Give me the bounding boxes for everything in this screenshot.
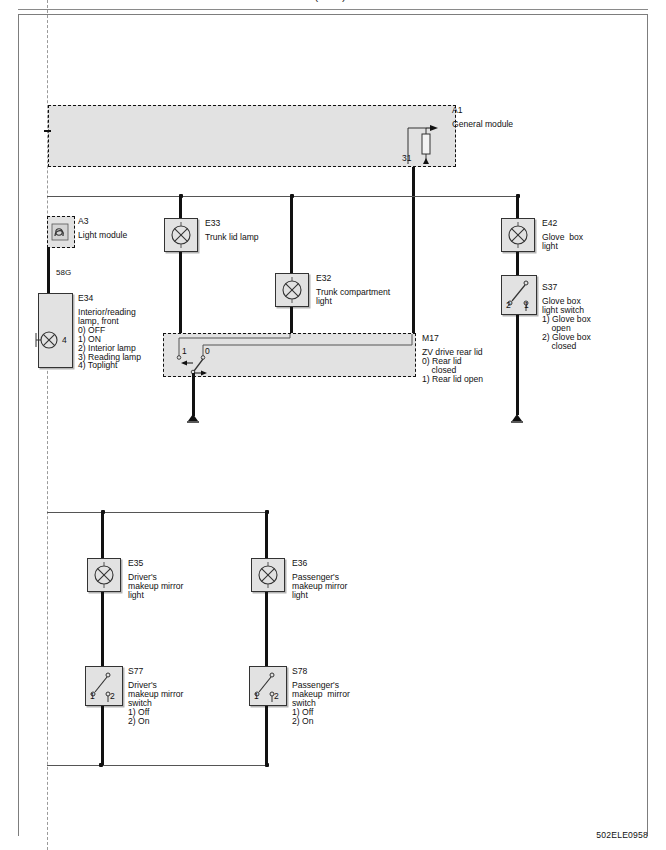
page-frame-left — [18, 14, 19, 836]
component-s37-pin-a: 2 — [506, 300, 511, 310]
module-a1-terminal-31-label: 31 — [402, 153, 411, 163]
lamp-icon — [168, 222, 194, 248]
component-s77-pin-b: 2 — [110, 691, 115, 701]
component-s78-name: Passenger's makeup mirror switch 1) Off … — [292, 681, 350, 726]
component-e42-id: E42 — [542, 219, 557, 228]
lamp-icon — [36, 329, 62, 351]
wire-58g — [47, 248, 50, 294]
wire-bus-to-e36 — [265, 512, 268, 558]
wire-e35-to-s77 — [101, 592, 104, 666]
wire-bus-to-e32 — [290, 196, 293, 273]
junction-dot-s77-return — [99, 763, 103, 767]
light-module-icon — [50, 222, 70, 242]
component-e42-name: Glove box light — [542, 233, 583, 251]
module-m17-pin-1: 1 — [182, 346, 187, 356]
component-s78-pin-b: 2 — [274, 691, 279, 701]
wire-e32-to-m17 — [290, 307, 293, 334]
wire-a1-to-m17 — [412, 167, 415, 342]
module-a1-general[interactable] — [48, 105, 456, 167]
wire-bus-to-e33 — [179, 196, 182, 218]
component-e35-name: Driver's makeup mirror light — [128, 573, 183, 600]
component-s78-pin-a: 1 — [254, 691, 259, 701]
page-frame-right — [647, 14, 648, 836]
ground-symbol-left — [186, 414, 200, 424]
bus-mirror-supply — [47, 512, 269, 513]
module-a3-name: Light module — [78, 231, 127, 240]
module-a3-id: A3 — [78, 217, 89, 226]
component-s78-id: S78 — [292, 667, 307, 676]
component-s77-pin-a: 1 — [90, 691, 95, 701]
page-frame-top — [18, 14, 648, 15]
drawing-code: 502ELE0958 — [596, 830, 648, 840]
component-e32-id: E32 — [316, 274, 331, 283]
wire-e36-to-s78 — [265, 592, 268, 666]
page-top-rule — [18, 9, 648, 10]
lamp-icon — [505, 222, 531, 248]
wire-s78-to-bus — [265, 706, 268, 766]
module-a1-left-terminal — [44, 130, 51, 132]
component-e34-name: Interior/reading lamp, front 0) OFF 1) O… — [78, 308, 141, 370]
component-e36-id: E36 — [292, 559, 307, 568]
component-e33-id: E33 — [205, 219, 220, 228]
module-a1-name: General module — [452, 120, 513, 129]
module-m17-state-1: 1) Rear lid open — [422, 375, 483, 384]
component-s37-id: S37 — [542, 283, 557, 292]
wire-s77-to-bus — [101, 706, 104, 766]
junction-dot-s78-return — [265, 763, 269, 767]
component-s77-name: Driver's makeup mirror switch 1) Off 2) … — [128, 681, 183, 726]
component-e36-name: Passenger's makeup mirror light — [292, 573, 347, 600]
lamp-icon — [255, 562, 281, 588]
module-m17-pin-0: 0 — [205, 346, 210, 356]
wire-s37-to-ground — [516, 315, 519, 415]
lamp-icon — [91, 562, 117, 588]
bus-upper-supply — [47, 196, 520, 197]
wire-bus-to-e42 — [516, 196, 519, 218]
page-top-clipped-text: (cont.) — [240, 0, 420, 4]
wire-label-58g: 58G — [56, 268, 71, 277]
component-e34-id: E34 — [78, 294, 93, 303]
component-s37-name: Glove box light switch 1) Glove box open… — [542, 297, 591, 350]
wiring-diagram-page: (cont.) A1 General module 31 — [0, 0, 666, 850]
wire-m17-to-ground — [192, 373, 195, 416]
component-s37-pin-b: 1 — [524, 300, 529, 310]
module-a1-id: A1 — [452, 106, 463, 115]
lamp-icon — [279, 277, 305, 303]
module-m17-id: M17 — [422, 334, 439, 343]
ground-symbol-right — [510, 414, 524, 424]
component-e35-id: E35 — [128, 559, 143, 568]
bus-mirror-return — [47, 765, 269, 766]
component-e33-name: Trunk lid lamp — [205, 233, 259, 242]
module-m17-internal-wiring — [163, 333, 416, 377]
wire-e33-to-m17 — [179, 252, 182, 334]
component-e34-pin: 4 — [62, 335, 67, 345]
wire-bus-to-e35 — [101, 512, 104, 558]
wire-e42-to-s37 — [516, 252, 519, 275]
component-s77-id: S77 — [128, 667, 143, 676]
component-e32-name: Trunk compartment light — [316, 288, 390, 306]
